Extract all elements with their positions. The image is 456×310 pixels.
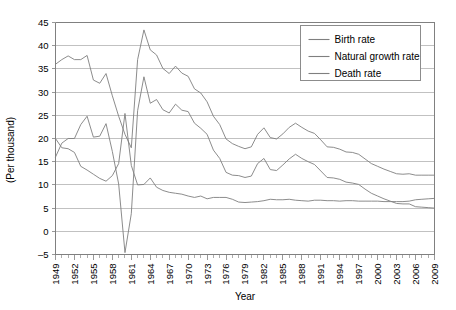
- chart-figure: –5051015202530354045 1949195219551958196…: [0, 0, 456, 310]
- x-tick-label: 1961: [126, 264, 137, 285]
- x-tick-label: 1982: [258, 264, 269, 285]
- x-tick-label: 2003: [391, 264, 402, 285]
- x-tick-label: 1958: [107, 264, 118, 285]
- y-axis-title: (Per thousand): [5, 117, 16, 183]
- legend-label: Death rate: [335, 68, 382, 79]
- x-axis-title: Year: [235, 291, 256, 302]
- x-tick-label: 1955: [88, 264, 99, 285]
- x-tick-label: 2009: [429, 264, 440, 285]
- y-tick-label: 10: [38, 179, 49, 190]
- x-tick-label: 1973: [202, 264, 213, 285]
- x-tick-label: 1979: [239, 264, 250, 285]
- x-minor-tick-marks: [56, 255, 435, 260]
- x-tick-label: 1985: [277, 264, 288, 285]
- x-tick-label: 1976: [220, 264, 231, 285]
- x-tick-label: 1964: [145, 264, 156, 285]
- series-line-natural-growth-rate: [56, 77, 435, 253]
- chart-legend: Birth rateNatural growth rateDeath rate: [301, 26, 421, 81]
- y-tick-label: 0: [43, 226, 48, 237]
- y-tick-label: 15: [38, 156, 49, 167]
- legend-label: Natural growth rate: [335, 51, 420, 62]
- series-line-death-rate: [56, 113, 435, 202]
- y-tick-labels: –5051015202530354045: [38, 17, 49, 260]
- x-tick-label: 1970: [183, 264, 194, 285]
- x-tick-label: 1991: [315, 264, 326, 285]
- x-tick-label: 2000: [372, 264, 383, 285]
- y-tick-label: 25: [38, 110, 49, 121]
- x-tick-label: 1952: [69, 264, 80, 285]
- legend-label: Birth rate: [335, 34, 376, 45]
- x-tick-label: 1988: [296, 264, 307, 285]
- y-tick-label: 45: [38, 17, 49, 28]
- y-tick-label: 30: [38, 87, 49, 98]
- y-tick-label: 40: [38, 40, 49, 51]
- y-tick-label: 5: [43, 203, 48, 214]
- x-tick-label: 1997: [353, 264, 364, 285]
- x-tick-labels: 1949195219551958196119641967197019731976…: [50, 264, 440, 285]
- x-tick-label: 2006: [410, 264, 421, 285]
- x-tick-label: 1949: [50, 264, 61, 285]
- y-tick-label: –5: [38, 249, 49, 260]
- y-tick-marks: [52, 23, 56, 255]
- demographic-rates-line-chart: –5051015202530354045 1949195219551958196…: [0, 0, 456, 310]
- x-tick-label: 1994: [334, 264, 345, 285]
- y-tick-label: 35: [38, 63, 49, 74]
- x-tick-label: 1967: [164, 264, 175, 285]
- y-tick-label: 20: [38, 133, 49, 144]
